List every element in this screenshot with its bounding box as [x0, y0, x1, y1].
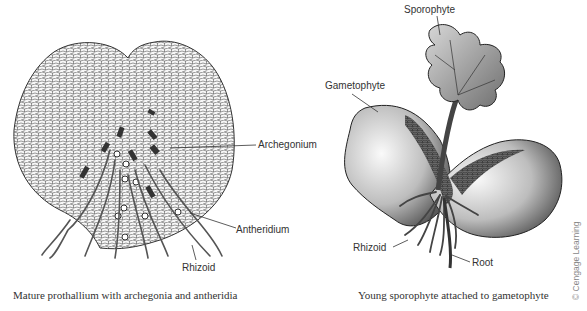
label-rhizoid-left: Rhizoid — [182, 262, 215, 273]
diagram-artwork — [0, 0, 587, 311]
label-sporophyte: Sporophyte — [404, 4, 455, 15]
label-archegonium: Archegonium — [258, 139, 317, 150]
label-rhizoid-right: Rhizoid — [353, 242, 386, 253]
sporophyte-illustration — [345, 25, 562, 268]
label-root: Root — [472, 257, 493, 268]
label-antheridium: Antheridium — [236, 224, 289, 235]
caption-left: Mature prothallium with archegonia and a… — [13, 289, 238, 301]
caption-right: Young sporophyte attached to gametophyte — [358, 289, 549, 301]
prothallium-illustration — [14, 41, 234, 258]
label-gametophyte: Gametophyte — [325, 80, 385, 91]
copyright-credit: © Cengage Learning — [571, 221, 581, 300]
